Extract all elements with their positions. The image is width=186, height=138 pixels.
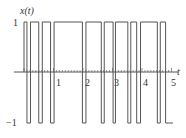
x-tick-3: 3 [114, 77, 119, 88]
x-tick-1: 1 [56, 77, 61, 88]
x-tick-4: 4 [143, 77, 148, 88]
y-tick-top: 1 [13, 17, 18, 28]
chart: x(t) t 1 −1 1 2 3 4 5 [0, 0, 186, 138]
y-axis-label: x(t) [19, 5, 35, 17]
x-axis-ticks [24, 68, 172, 72]
x-axis-label: t [177, 66, 180, 77]
y-tick-bottom: −1 [6, 117, 17, 128]
x-tick-5: 5 [171, 77, 176, 88]
